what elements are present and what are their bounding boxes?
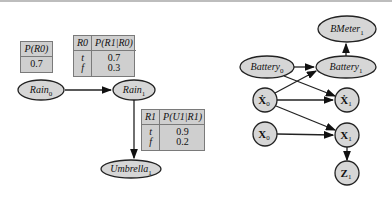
prior-table-header: P(R0) xyxy=(21,42,52,57)
transition-table-header-prob: P(R1|R0) xyxy=(92,36,136,51)
edge-x0-x1 xyxy=(277,134,333,135)
sensor-table: R1 P(U1|R1) t 0.9 f 0.2 xyxy=(141,109,205,151)
sensor-table-cond: f xyxy=(142,137,160,150)
transition-table: R0 P(R1|R0) t 0.7 f 0.3 xyxy=(73,35,135,77)
node-battery1: Battery1 xyxy=(316,56,376,78)
node-xdot1: Ẋ1 xyxy=(335,88,359,112)
edge-xdot0-x1 xyxy=(276,106,335,130)
transition-table-prob: 0.3 xyxy=(92,63,136,76)
prior-table-value: 0.7 xyxy=(21,57,52,73)
prior-table: P(R0) 0.7 xyxy=(20,41,53,73)
transition-table-header-cond: R0 xyxy=(74,36,92,51)
sensor-table-header-cond: R1 xyxy=(142,110,160,125)
sensor-table-header-prob: P(U1|R1) xyxy=(160,110,205,125)
node-rain1: Rain1 xyxy=(113,80,155,100)
node-x1: X1 xyxy=(335,123,359,147)
node-bmeter1: BMeter1 xyxy=(318,16,376,42)
node-z1: Z1 xyxy=(335,161,359,185)
node-umbrella1: Umbrella1 xyxy=(101,160,161,178)
transition-table-cond: f xyxy=(74,63,92,76)
diagram-canvas: Rain0 Rain1 Umbrella1 BMeter1 Battery0 B… xyxy=(0,0,392,197)
edge-battery0-xdot1 xyxy=(284,76,335,96)
node-rain0: Rain0 xyxy=(18,80,64,100)
node-x0: X0 xyxy=(253,122,277,146)
node-battery0: Battery0 xyxy=(240,56,294,78)
sensor-table-prob: 0.2 xyxy=(160,137,205,150)
node-xdot0: Ẋ0 xyxy=(253,88,277,112)
